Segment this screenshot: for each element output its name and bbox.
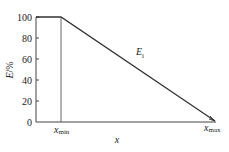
y-tick-40: 40 bbox=[22, 75, 32, 86]
y-tick-labels: 100 80 60 40 20 0 bbox=[17, 12, 32, 128]
x-tick-xmax: xmax bbox=[203, 122, 221, 134]
x-tick-xmin: xmin bbox=[53, 124, 70, 136]
series-Ei-label: Ei bbox=[135, 46, 144, 60]
y-axis-label: E/% bbox=[4, 61, 15, 79]
x-axis-label: x bbox=[114, 134, 120, 145]
y-tick-80: 80 bbox=[22, 33, 32, 44]
y-tick-0: 0 bbox=[27, 117, 32, 128]
series-Ei-line bbox=[36, 17, 215, 121]
y-tick-100: 100 bbox=[17, 12, 32, 23]
xmax-arrow-icon bbox=[209, 116, 215, 121]
y-tick-20: 20 bbox=[22, 96, 32, 107]
chart: 100 80 60 40 20 0 E/% Ei xmin xmax x bbox=[0, 0, 229, 152]
y-tick-60: 60 bbox=[22, 54, 32, 65]
